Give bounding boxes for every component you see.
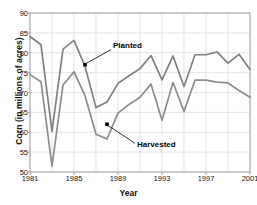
plot-frame — [27, 13, 250, 175]
annotation-label-harvested: Harvested — [137, 140, 176, 149]
annotation-label-planted: Planted — [113, 41, 142, 50]
corn-acreage-line-chart: Corn (in millions of acres) Year 5055606… — [0, 0, 257, 205]
annotation-marker-harvested — [105, 123, 109, 127]
annotation-marker-planted — [83, 63, 87, 67]
annotation-markers — [83, 50, 135, 144]
plot-area — [0, 0, 257, 205]
